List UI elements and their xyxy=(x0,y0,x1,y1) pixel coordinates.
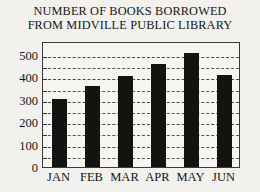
x-axis-label-may: MAY xyxy=(174,170,207,184)
y-axis-label-500: 500 xyxy=(4,50,38,62)
y-tick-450 xyxy=(43,68,47,69)
y-tick-400 xyxy=(43,79,47,80)
x-axis-label-jun: JUN xyxy=(207,170,240,184)
y-tick-500 xyxy=(43,57,47,58)
gridline-100 xyxy=(43,147,239,148)
x-axis-label-apr: APR xyxy=(141,170,174,184)
y-tick-300 xyxy=(43,102,47,103)
y-axis-labels: 0100200300400500 xyxy=(0,42,38,168)
plot-area xyxy=(42,42,240,168)
x-axis-label-jan: JAN xyxy=(42,170,75,184)
y-axis-label-100: 100 xyxy=(4,140,38,152)
gridline-350 xyxy=(43,91,239,92)
chart-title-line-1: NUMBER OF BOOKS BORROWED xyxy=(0,4,260,18)
y-tick-50 xyxy=(43,158,47,159)
bar-may xyxy=(184,53,199,167)
y-tick-200 xyxy=(43,124,47,125)
y-axis-label-0: 0 xyxy=(4,162,38,174)
bar-apr xyxy=(151,64,166,167)
y-tick-250 xyxy=(43,113,47,114)
gridline-400 xyxy=(43,79,239,80)
bar-mar xyxy=(118,76,133,167)
y-axis-label-300: 300 xyxy=(4,95,38,107)
bar-feb xyxy=(85,86,100,167)
gridline-450 xyxy=(43,68,239,69)
x-axis-label-mar: MAR xyxy=(108,170,141,184)
x-axis-labels: JANFEBMARAPRMAYJUN xyxy=(42,170,240,188)
y-axis-label-200: 200 xyxy=(4,117,38,129)
y-axis-label-400: 400 xyxy=(4,72,38,84)
y-tick-150 xyxy=(43,135,47,136)
gridline-200 xyxy=(43,124,239,125)
x-axis-label-feb: FEB xyxy=(75,170,108,184)
bar-jun xyxy=(217,75,232,167)
chart-title-line-2: FROM MIDVILLE PUBLIC LIBRARY xyxy=(0,18,260,32)
bar-jan xyxy=(52,99,67,167)
y-tick-350 xyxy=(43,91,47,92)
gridline-250 xyxy=(43,113,239,114)
plot-inner xyxy=(43,43,239,167)
gridline-50 xyxy=(43,158,239,159)
gridline-300 xyxy=(43,102,239,103)
gridline-150 xyxy=(43,135,239,136)
chart-title: NUMBER OF BOOKS BORROWED FROM MIDVILLE P… xyxy=(0,4,260,32)
gridline-500 xyxy=(43,57,239,58)
chart-figure: NUMBER OF BOOKS BORROWED FROM MIDVILLE P… xyxy=(0,0,260,192)
y-tick-100 xyxy=(43,147,47,148)
